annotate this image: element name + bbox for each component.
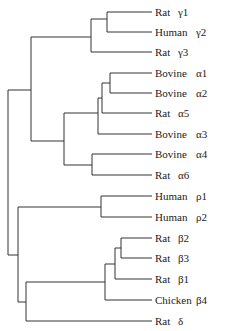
subunit-name: α5: [178, 107, 189, 119]
species-name: Rat: [155, 315, 170, 327]
subunit-name: α2: [196, 87, 207, 99]
phylogenetic-tree: [0, 0, 226, 331]
species-name: Chicken: [155, 294, 192, 306]
species-name: Rat: [155, 46, 170, 58]
species-name: Bovine: [155, 148, 187, 160]
subunit-name: α6: [178, 169, 189, 181]
subunit-name: ρ2: [196, 211, 207, 223]
subunit-name: β2: [178, 232, 189, 244]
subunit-name: α4: [196, 148, 207, 160]
species-name: Human: [155, 26, 187, 38]
subunit-name: α1: [196, 67, 207, 79]
subunit-name: γ3: [178, 46, 188, 58]
subunit-name: α3: [196, 128, 207, 140]
species-name: Bovine: [155, 128, 187, 140]
subunit-name: β3: [178, 252, 189, 264]
species-name: Rat: [155, 107, 170, 119]
species-name: Human: [155, 190, 187, 202]
subunit-name: β1: [178, 273, 189, 285]
species-name: Bovine: [155, 87, 187, 99]
species-name: Bovine: [155, 67, 187, 79]
species-name: Rat: [155, 232, 170, 244]
subunit-name: ρ1: [196, 190, 207, 202]
species-name: Rat: [155, 273, 170, 285]
subunit-name: γ1: [178, 6, 188, 18]
tree-branches: [8, 12, 152, 321]
subunit-name: γ2: [196, 26, 206, 38]
species-name: Rat: [155, 6, 170, 18]
species-name: Rat: [155, 252, 170, 264]
species-name: Human: [155, 211, 187, 223]
species-name: Rat: [155, 169, 170, 181]
subunit-name: δ: [178, 315, 183, 327]
subunit-name: β4: [196, 294, 207, 306]
